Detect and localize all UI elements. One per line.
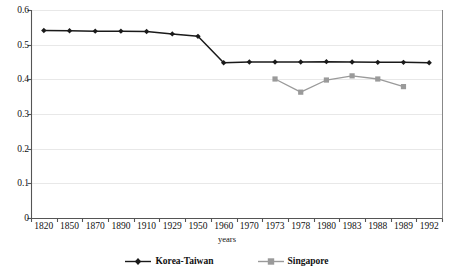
x-axis-title: years xyxy=(0,234,454,244)
legend-marker-square-icon xyxy=(258,257,284,266)
legend-item-korea-taiwan: Korea-Taiwan xyxy=(125,256,213,267)
chart-legend: Korea-Taiwan Singapore xyxy=(0,256,454,267)
legend-label-korea-taiwan: Korea-Taiwan xyxy=(155,256,213,267)
legend-item-singapore: Singapore xyxy=(258,256,329,267)
legend-label-singapore: Singapore xyxy=(288,256,329,267)
chart-container: 00.10.20.30.40.50.6 18201850187018901910… xyxy=(0,0,454,278)
x-axis-tick-label: 1992 xyxy=(409,221,449,232)
legend-marker-diamond-icon xyxy=(125,257,151,266)
